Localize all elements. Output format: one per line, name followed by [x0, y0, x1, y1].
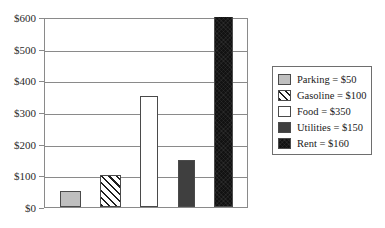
legend-label-gasoline: Gasoline = $100 [297, 90, 367, 101]
bar-chart-figure: $600 $500 $400 $300 $200 $100 $0 [0, 0, 385, 228]
y-axis: $600 $500 $400 $300 $200 $100 $0 [0, 0, 44, 228]
legend-label-rent: Rent = $160 [297, 138, 349, 149]
legend-swatch-parking [278, 74, 291, 85]
y-tick-label-100: $100 [14, 171, 36, 182]
bar-food [140, 96, 158, 207]
y-tick-label-400: $400 [14, 76, 36, 87]
bar-rent [214, 17, 233, 207]
legend: Parking = $50 Gasoline = $100 Food = $35… [272, 66, 372, 155]
legend-item-rent: Rent = $160 [278, 136, 367, 151]
legend-item-utilities: Utilities = $150 [278, 120, 367, 135]
legend-swatch-rent [278, 138, 291, 149]
bar-gasoline [100, 175, 121, 207]
plot-area [44, 18, 248, 208]
y-tick-label-300: $300 [14, 108, 36, 119]
legend-item-parking: Parking = $50 [278, 72, 367, 87]
y-tick-mark-0 [39, 208, 44, 209]
legend-item-gasoline: Gasoline = $100 [278, 88, 367, 103]
legend-label-utilities: Utilities = $150 [297, 122, 363, 133]
bars-group [45, 19, 247, 207]
legend-label-food: Food = $350 [297, 106, 351, 117]
legend-label-parking: Parking = $50 [297, 74, 357, 85]
legend-swatch-gasoline [278, 90, 291, 101]
y-tick-label-200: $200 [14, 139, 36, 150]
bar-utilities [178, 160, 195, 208]
legend-item-food: Food = $350 [278, 104, 367, 119]
y-tick-label-500: $500 [14, 44, 36, 55]
y-tick-label-0: $0 [25, 203, 36, 214]
y-tick-label-600: $600 [14, 13, 36, 24]
legend-swatch-food [278, 106, 291, 117]
legend-swatch-utilities [278, 122, 291, 133]
bar-parking [60, 191, 81, 207]
